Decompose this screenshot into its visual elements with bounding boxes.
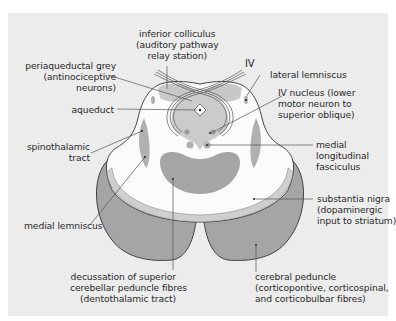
mlf-left xyxy=(187,142,194,149)
label-medial-lemniscus: medial lemniscus xyxy=(24,220,102,231)
label-inferior-colliculus: inferior colliculus (auditory pathway re… xyxy=(136,28,219,62)
label-medial-longitudinal-fasciculus: medial longitudinal fasciculus xyxy=(316,139,369,173)
label-cerebral-peduncle: cerebral peduncle (corticopontive, corti… xyxy=(255,271,389,305)
label-decussation: decussation of superior cerebellar pedun… xyxy=(70,271,176,305)
label-iv-nucleus: IV nucleus (lower motor neuron to superi… xyxy=(278,87,355,121)
iv-nucleus-left xyxy=(184,129,189,134)
label-substantia-nigra: substantia nigra (dopaminergic input to … xyxy=(317,193,396,227)
lateral-lemniscus-left xyxy=(151,96,155,104)
label-spinothalamic-tract: spinothalamic tract xyxy=(20,141,90,163)
label-aqueduct: aqueduct xyxy=(40,104,114,115)
label-iv-nerve: IV xyxy=(245,58,255,69)
label-lateral-lemniscus: lateral lemniscus xyxy=(270,69,347,80)
label-periaqueductal-grey: periaqueductal grey (antinociceptive neu… xyxy=(22,60,116,94)
